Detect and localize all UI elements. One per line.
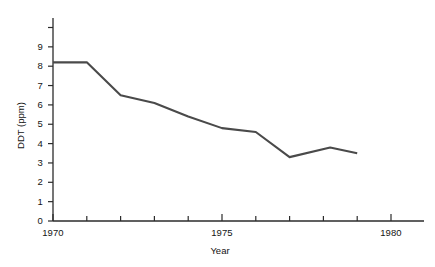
x-axis-tick-label: 1975 — [202, 227, 242, 238]
ddt-line-chart: 9876543210 197019751980 DDT (ppm) Year — [0, 0, 435, 267]
y-axis-tick-label: 3 — [27, 157, 43, 168]
y-axis-tick-label: 7 — [27, 80, 43, 91]
y-axis-tick-label: 2 — [27, 176, 43, 187]
x-axis-ticks — [53, 214, 391, 221]
y-axis-tick-label: 1 — [27, 196, 43, 207]
y-axis-title: DDT (ppm) — [15, 86, 26, 166]
y-axis-tick-label: 9 — [27, 41, 43, 52]
y-axis-tick-label: 0 — [27, 215, 43, 226]
y-axis-tick-label: 6 — [27, 99, 43, 110]
data-series-line — [53, 62, 357, 157]
x-axis-title: Year — [180, 245, 260, 256]
y-axis-tick-label: 5 — [27, 118, 43, 129]
x-axis-tick-label: 1980 — [371, 227, 411, 238]
y-axis-tick-label: 8 — [27, 60, 43, 71]
y-axis-ticks — [48, 28, 53, 222]
x-axis-tick-label: 1970 — [33, 227, 73, 238]
y-axis-tick-label: 4 — [27, 138, 43, 149]
